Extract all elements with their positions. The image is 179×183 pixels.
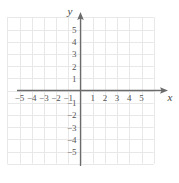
x-tick-label: −5 (15, 93, 25, 103)
y-tick-label: −4 (67, 135, 77, 145)
x-tick-label: 4 (127, 93, 132, 103)
y-axis-label: y (67, 5, 73, 17)
y-tick-label: 4 (72, 37, 77, 47)
x-axis-label: x (167, 91, 173, 103)
x-axis-tick-labels: −5−4−3−2−112345 (15, 93, 145, 103)
y-tick-label: −2 (67, 110, 77, 120)
y-tick-label: 3 (72, 49, 77, 59)
x-tick-label: 3 (115, 93, 120, 103)
x-tick-label: −3 (39, 93, 49, 103)
y-tick-label: 1 (72, 74, 77, 84)
x-tick-label: 5 (139, 93, 144, 103)
y-tick-label: −1 (67, 98, 77, 108)
x-tick-label: −4 (27, 93, 37, 103)
y-tick-label: −3 (67, 123, 77, 133)
coordinate-plane-figure: −5−4−3−2−112345 54321−1−2−3−4−5 y x (0, 0, 179, 183)
y-tick-label: 2 (72, 62, 77, 72)
axis-lines (17, 12, 168, 166)
y-tick-label: 5 (72, 25, 77, 35)
y-tick-label: −5 (67, 147, 77, 157)
x-tick-label: −2 (51, 93, 61, 103)
x-tick-label: 1 (90, 93, 95, 103)
coordinate-plane-svg: −5−4−3−2−112345 54321−1−2−3−4−5 y x (0, 0, 179, 183)
x-tick-label: 2 (103, 93, 108, 103)
